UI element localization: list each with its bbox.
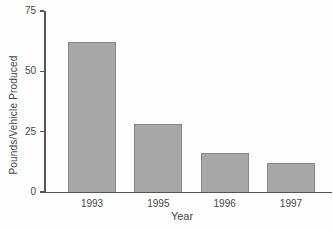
x-tick-label-1996: 1996 <box>195 198 255 209</box>
y-tick-label: 25 <box>12 126 36 138</box>
pounds-per-vehicle-bar-chart: Pounds/Vehicle Produced 0255075 19931995… <box>0 0 333 230</box>
y-tick-label: 50 <box>12 65 36 77</box>
x-tick-label-1997: 1997 <box>261 198 321 209</box>
x-axis-line <box>44 192 332 194</box>
y-tick-label: 75 <box>12 5 36 17</box>
bar-1996 <box>201 153 249 192</box>
x-axis-title: Year <box>32 210 332 222</box>
plot-area: 0255075 1993199519961997 <box>44 11 332 192</box>
y-axis-line <box>44 11 46 192</box>
bar-1993 <box>68 42 116 192</box>
x-tick-label-1995: 1995 <box>128 198 188 209</box>
x-tick-label-1993: 1993 <box>62 198 122 209</box>
bar-1997 <box>267 163 315 192</box>
y-tick-label: 0 <box>12 186 36 198</box>
bar-1995 <box>134 124 182 192</box>
